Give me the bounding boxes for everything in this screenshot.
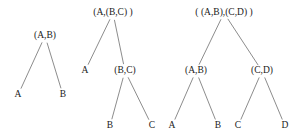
tree-leaf-node: B xyxy=(215,121,221,131)
tree-leaf-node: C xyxy=(149,121,155,131)
tree-edge xyxy=(47,43,61,89)
tree-internal-node: (A,(B,C) ) xyxy=(93,8,132,18)
tree-edge xyxy=(114,20,123,64)
tree-edge xyxy=(265,77,283,119)
tree-internal-node: (A,B) xyxy=(185,66,207,76)
tree-edge xyxy=(112,78,123,120)
tree-leaf-node: C xyxy=(235,121,241,131)
tree-leaf-node: D xyxy=(282,121,289,131)
tree-edge xyxy=(88,19,110,64)
tree-internal-node: (B,C) xyxy=(114,66,135,76)
tree-internal-node: (C,D) xyxy=(251,66,273,76)
tree-internal-node: ( (A,B),(C,D) ) xyxy=(195,8,252,18)
tree-internal-node: (A,B) xyxy=(34,31,56,41)
tree-leaf-node: B xyxy=(107,121,113,131)
tree-leaf-node: A xyxy=(82,66,89,76)
tree-edge xyxy=(228,19,258,65)
tree-edge xyxy=(241,77,259,119)
tree-edge xyxy=(128,77,149,119)
tree-edge xyxy=(199,19,221,64)
tree-leaf-node: A xyxy=(169,121,176,131)
tree-diagram-canvas: (A,B)AB(A,(B,C) )A(B,C)BC( (A,B),(C,D) )… xyxy=(0,0,301,139)
tree-leaf-node: B xyxy=(60,90,66,100)
tree-edge xyxy=(175,77,193,119)
tree-edge xyxy=(21,42,42,88)
tree-edge xyxy=(199,78,216,120)
tree-leaf-node: A xyxy=(15,90,22,100)
